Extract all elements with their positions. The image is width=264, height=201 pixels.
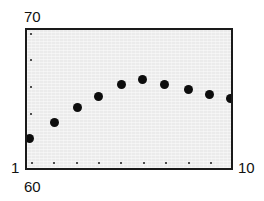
plot-area	[25, 28, 233, 170]
scatter-chart-figure: 70 1 60 10	[0, 0, 264, 201]
y-axis-max-label: 70	[24, 9, 41, 24]
y-axis-min-label: 1	[11, 160, 19, 175]
x-axis-max-label: 10	[238, 160, 255, 175]
x-axis-tick-dot	[76, 162, 78, 164]
data-point	[94, 92, 103, 101]
data-point	[50, 118, 59, 127]
data-point	[25, 134, 34, 143]
x-axis-tick-dot	[98, 162, 100, 164]
y-axis-tick-dot	[30, 59, 32, 61]
x-axis-tick-dot	[31, 162, 33, 164]
x-axis-tick-dot	[143, 162, 145, 164]
data-point	[73, 103, 82, 112]
data-point	[117, 80, 126, 89]
x-axis-tick-dot	[210, 162, 212, 164]
x-axis-min-label: 60	[24, 179, 41, 194]
data-point	[138, 75, 147, 84]
data-point	[226, 94, 234, 103]
x-axis-tick-dot	[165, 162, 167, 164]
x-axis-tick-dot	[120, 162, 122, 164]
data-point	[184, 85, 193, 94]
data-point	[160, 80, 169, 89]
y-axis-tick-dot	[30, 113, 32, 115]
x-axis-tick-dot	[53, 162, 55, 164]
y-axis-tick-dot	[30, 33, 32, 35]
y-axis-tick-dot	[30, 86, 32, 88]
data-point	[205, 90, 214, 99]
plot-background-texture	[27, 30, 231, 168]
x-axis-tick-dot	[188, 162, 190, 164]
